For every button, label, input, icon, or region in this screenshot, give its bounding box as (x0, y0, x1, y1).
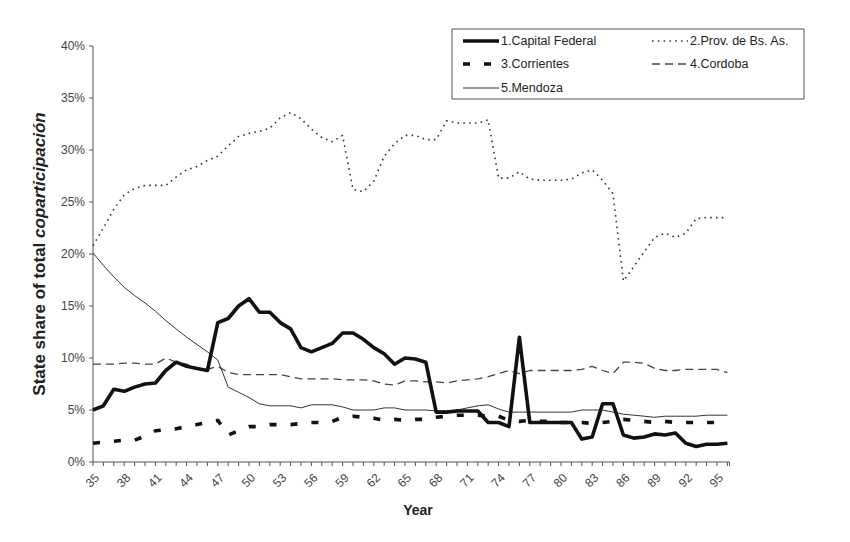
series-line-5 (93, 253, 727, 417)
x-tick-label: 35 (83, 471, 103, 491)
svg-text:State share of total copartici: State share of total coparticipación (30, 112, 49, 395)
series-line-4 (93, 358, 727, 385)
x-tick-label: 50 (239, 471, 259, 491)
legend-label-4: 4.Cordoba (690, 57, 748, 71)
x-tick-label: 59 (332, 471, 352, 491)
legend: 1.Capital Federal2.Prov. de Bs. As.3.Cor… (452, 29, 804, 99)
x-tick-label: 92 (676, 471, 696, 491)
axes: 0%5%10%15%20%25%30%35%40%353841444750535… (61, 39, 730, 490)
x-tick-label: 83 (582, 471, 602, 491)
x-tick-label: 56 (301, 471, 321, 491)
y-tick-label: 20% (61, 247, 85, 261)
y-tick-label: 0% (68, 455, 86, 469)
series-lines (93, 113, 727, 447)
x-axis-label: Year (403, 502, 433, 518)
legend-label-1: 1.Capital Federal (501, 34, 596, 48)
series-line-2 (93, 113, 727, 281)
y-axis-label: State share of total coparticipación (30, 112, 49, 395)
x-tick-label: 62 (364, 471, 384, 491)
x-tick-label: 86 (613, 471, 633, 491)
y-tick-label: 30% (61, 143, 85, 157)
x-tick-label: 77 (520, 471, 540, 491)
series-line-1 (93, 299, 727, 447)
legend-label-2: 2.Prov. de Bs. As. (690, 34, 788, 48)
x-tick-label: 71 (457, 471, 477, 491)
y-tick-label: 15% (61, 299, 85, 313)
x-tick-label: 47 (208, 471, 228, 491)
y-tick-label: 5% (68, 403, 86, 417)
legend-label-3: 3.Corrientes (501, 57, 569, 71)
legend-label-5: 5.Mendoza (501, 81, 563, 95)
y-tick-label: 35% (61, 91, 85, 105)
x-tick-label: 89 (644, 471, 664, 491)
chart: 0%5%10%15%20%25%30%35%40%353841444750535… (0, 0, 850, 542)
x-tick-label: 38 (114, 471, 134, 491)
y-tick-label: 40% (61, 39, 85, 53)
x-tick-label: 41 (145, 471, 165, 491)
x-tick-label: 80 (551, 471, 571, 491)
x-tick-label: 53 (270, 471, 290, 491)
x-tick-label: 74 (488, 471, 508, 491)
x-tick-label: 68 (426, 471, 446, 491)
y-tick-label: 10% (61, 351, 85, 365)
x-tick-label: 95 (707, 471, 727, 491)
x-tick-label: 44 (176, 471, 196, 491)
y-tick-label: 25% (61, 195, 85, 209)
x-tick-label: 65 (395, 471, 415, 491)
